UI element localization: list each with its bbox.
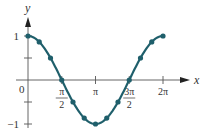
x-tick-label-denominator: 2 (59, 99, 64, 110)
y-axis-arrow-icon (25, 17, 31, 27)
y-tick-label: −1 (7, 118, 19, 130)
data-point (93, 121, 98, 126)
x-tick-label-denominator: 2 (127, 99, 132, 110)
origin-label: 0 (19, 83, 25, 95)
data-point (48, 55, 53, 60)
x-axis-arrow-icon (180, 77, 190, 83)
y-axis-label: y (24, 1, 31, 15)
data-point (82, 116, 87, 121)
data-point (104, 116, 109, 121)
data-point (149, 39, 154, 44)
x-tick-label-numerator: π (59, 86, 64, 97)
y-tick-label: 1 (14, 30, 20, 42)
data-point (138, 55, 143, 60)
data-point (127, 77, 132, 82)
cosine-chart: xy01−1π2π3π22π (0, 0, 200, 137)
x-axis-label: x (193, 73, 200, 87)
data-point (70, 99, 75, 104)
data-point (160, 33, 165, 38)
data-point (37, 39, 42, 44)
data-point (25, 33, 30, 38)
data-point (115, 99, 120, 104)
x-tick-label: 2π (158, 86, 168, 97)
data-point (59, 77, 64, 82)
x-tick-label: π (93, 86, 98, 97)
